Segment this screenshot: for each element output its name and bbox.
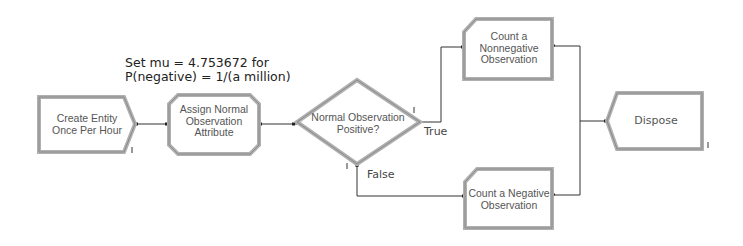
dispose-marker (707, 142, 709, 148)
dispose-module-label: Dispose (612, 115, 700, 127)
annotation-text: Set mu = 4.753672 for P(negative) = 1/(a… (125, 56, 291, 84)
assign-module-label: Assign Normal Observation Attribute (170, 104, 258, 139)
create-label-line-2: Once Per Hour (44, 125, 130, 137)
decide-false-marker (346, 163, 348, 169)
create-label-line-1: Create Entity (44, 113, 130, 125)
annotation-line-2: P(negative) = 1/(a million) (125, 70, 291, 84)
assign-label-line-3: Attribute (170, 127, 258, 139)
connector-decide-true[interactable] (420, 47, 463, 122)
record-neg-label-line-2: Observation (464, 200, 554, 212)
create-module-label: Create Entity Once Per Hour (44, 113, 130, 136)
true-branch-label: True (424, 125, 447, 138)
record-nonneg-label-line-1: Count a (466, 31, 552, 43)
record-nonneg-label-line-3: Observation (466, 54, 552, 66)
decide-label-line-2: Positive? (300, 124, 416, 136)
connector-neg-dispose[interactable] (553, 121, 580, 195)
annotation-line-1: Set mu = 4.753672 for (125, 56, 291, 70)
false-branch-label: False (367, 168, 395, 181)
create-marker (131, 147, 133, 153)
decide-module-label: Normal Observation Positive? (300, 112, 416, 135)
dispose-label-line-1: Dispose (612, 115, 700, 127)
decide-label-line-1: Normal Observation (300, 112, 416, 124)
assign-label-line-1: Assign Normal (170, 104, 258, 116)
connector-nonneg-dispose[interactable] (553, 46, 606, 121)
record-nonneg-module-label: Count a Nonnegative Observation (466, 31, 552, 66)
record-neg-label-line-1: Count a Negative (464, 188, 554, 200)
record-neg-module-label: Count a Negative Observation (464, 188, 554, 211)
